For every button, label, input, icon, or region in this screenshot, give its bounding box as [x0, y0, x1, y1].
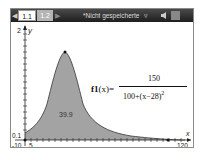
tab-1-1[interactable]: 1.1 [18, 10, 36, 21]
y-axis-name: y [27, 26, 33, 35]
menu-dropdown-icon[interactable]: ▿ [144, 12, 148, 19]
fraction-bar [119, 86, 187, 87]
x-tick-label: 5 [29, 142, 33, 148]
x-max-label: 120 [177, 142, 188, 148]
function-exponent: 2 [161, 90, 164, 96]
area-value-label[interactable]: 39.9 [59, 111, 73, 118]
y-max-label: 2 [17, 27, 21, 34]
document-title-text: *Nicht gespeicherte [83, 12, 139, 19]
y-min-label: 0.1 [12, 132, 21, 139]
document-title[interactable]: *Nicht gespeicherte ▿ [83, 9, 148, 22]
battery-icon [171, 11, 180, 20]
lower-bound-point[interactable] [24, 139, 27, 142]
function-numerator: 150 [123, 74, 185, 83]
nav-right-icon[interactable]: ▶ [55, 11, 60, 20]
y-axis-arrow-icon [23, 25, 27, 30]
calculator-screen: ◀ 1.1 1.2 ▶ *Nicht gespeicherte ▿ [10, 8, 194, 148]
function-arg: (x) [99, 84, 110, 94]
function-name: f1 [91, 84, 99, 94]
upper-bound-point[interactable] [167, 139, 170, 142]
x-min-label: -10 [12, 142, 22, 148]
function-equals: = [109, 84, 114, 94]
nav-left-icon[interactable]: ◀ [12, 11, 17, 20]
tab-1-2[interactable]: 1.2 [37, 10, 53, 21]
speaker-icon [159, 11, 168, 20]
peak-point[interactable] [64, 51, 67, 54]
graph-area[interactable]: 2 y 0.1 -10 5 120 x 39.9 f1(x)= 150 100+… [11, 22, 194, 148]
title-bar: ◀ 1.1 1.2 ▶ *Nicht gespeicherte ▿ [11, 9, 193, 22]
function-denominator: 100+(x−28) [123, 92, 161, 101]
x-axis-name: x [185, 130, 190, 137]
